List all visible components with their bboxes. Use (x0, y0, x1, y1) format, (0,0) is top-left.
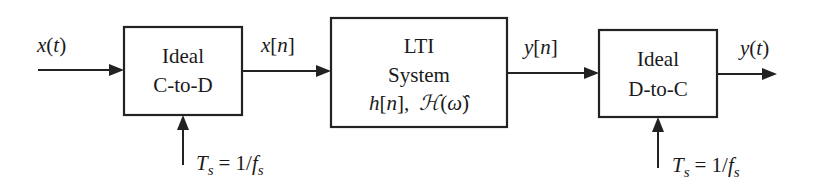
arrowhead-icon (584, 67, 599, 79)
clock-label-2: Ts= 1/fs (672, 153, 740, 180)
d2c-block-box (599, 30, 717, 117)
c2d-line-2: C-to-D (153, 73, 213, 97)
d2c-line-1: Ideal (637, 47, 679, 71)
input-label: x(t) (36, 33, 66, 57)
c2d-block-box (124, 27, 242, 115)
lti-line-3: h[n],ℋ(ω̂) (369, 91, 470, 115)
input-signal: x(t) (36, 33, 124, 76)
arrowhead-icon (177, 115, 189, 130)
d2c-block: Ideal D-to-C (599, 30, 717, 117)
arrowhead-icon (652, 117, 664, 132)
x-n-label: x[n] (260, 33, 295, 57)
arrowhead-icon (762, 68, 777, 80)
y-n-signal: y[n] (507, 35, 599, 79)
block-diagram: x(t) Ideal C-to-D Ts= 1/fs x[n] LTI Syst… (0, 0, 813, 193)
x-n-signal: x[n] (242, 33, 331, 77)
c2d-line-1: Ideal (162, 44, 204, 68)
output-signal: y(t) (717, 36, 777, 80)
y-n-label: y[n] (522, 35, 558, 59)
clock-input-1: Ts= 1/fs (177, 115, 264, 178)
lti-line-1: LTI (404, 34, 435, 58)
clock-input-2: Ts= 1/fs (652, 117, 740, 180)
output-label: y(t) (738, 36, 769, 60)
clock-label-1: Ts= 1/fs (196, 151, 264, 178)
arrowhead-icon (109, 64, 124, 76)
lti-line-2: System (388, 63, 450, 87)
arrowhead-icon (316, 65, 331, 77)
d2c-line-2: D-to-C (628, 77, 688, 101)
c2d-block: Ideal C-to-D (124, 27, 242, 115)
lti-block: LTI System h[n],ℋ(ω̂) (331, 18, 507, 127)
